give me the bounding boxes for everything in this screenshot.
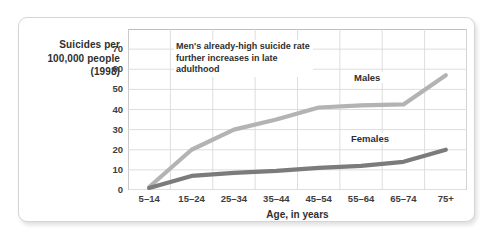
x-tick-label: 65–74 (380, 193, 426, 204)
series-label-males: Males (351, 72, 383, 83)
x-tick-label: 55–64 (338, 193, 384, 204)
x-axis-title: Age, in years (128, 209, 467, 220)
y-tick-label: 60 (101, 64, 123, 74)
x-tick-label: 15–24 (169, 193, 215, 204)
chart-annotation: Men's already-high suicide rate further … (174, 40, 313, 77)
y-tick-label: 0 (101, 185, 123, 195)
y-tick-label: 40 (101, 105, 123, 115)
y-tick-label: 10 (101, 165, 123, 175)
y-tick-label: 50 (101, 84, 123, 94)
figure-page: Suicides per 100,000 people (1998) 01020… (0, 0, 497, 240)
y-tick-label: 30 (101, 125, 123, 135)
x-tick-label: 35–44 (253, 193, 299, 204)
x-tick-label: 75+ (423, 193, 469, 204)
x-tick-label: 45–54 (296, 193, 342, 204)
y-tick-label: 70 (101, 44, 123, 54)
x-tick-label: 25–34 (211, 193, 257, 204)
x-tick-label: 5–14 (126, 193, 172, 204)
y-tick-label: 20 (101, 145, 123, 155)
series-label-females: Females (348, 133, 392, 144)
